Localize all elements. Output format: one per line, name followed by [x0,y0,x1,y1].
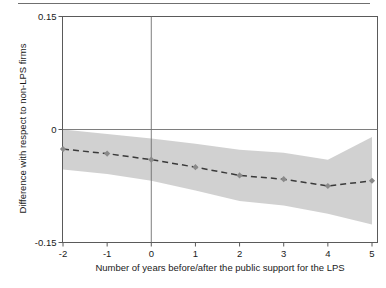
y-axis-title: Difference with respect to non-LPS firms [17,19,28,239]
x-tick-label-0: 0 [139,248,163,259]
x-tick-label-1: 1 [183,248,207,259]
x-tick-label-4: 4 [316,248,340,259]
x-tick-label--1: -1 [95,248,119,259]
x-tick-label-3: 3 [272,248,296,259]
x-tick-label-2: 2 [228,248,252,259]
figure-container: 0.15 0 -0.15 -2 -1 0 1 2 3 4 5 Number of… [0,0,386,288]
confidence-band-area [63,130,372,225]
x-tick-label--2: -2 [51,248,75,259]
x-axis-title: Number of years before/after the public … [62,262,378,273]
chart-canvas [0,0,386,288]
x-tick-label-5: 5 [360,248,384,259]
confidence-band [63,130,372,225]
